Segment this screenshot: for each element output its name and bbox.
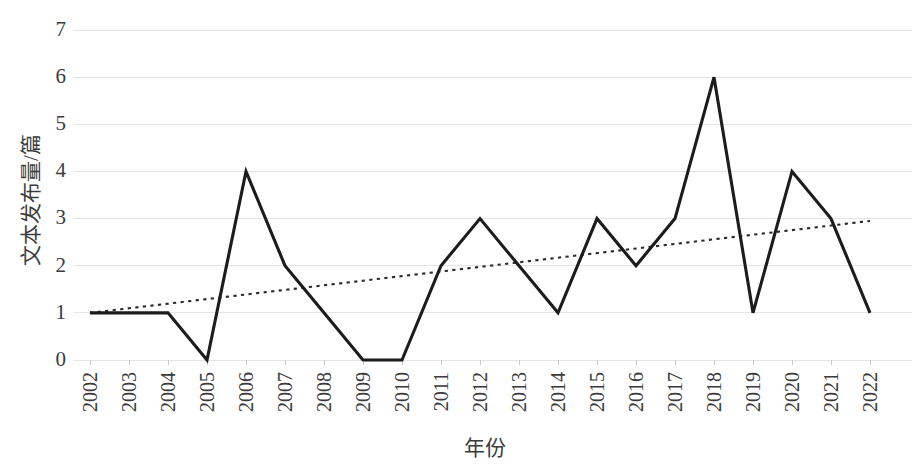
y-tick-labels-group: 01234567 [56, 17, 67, 371]
x-tick-label-2013: 2013 [508, 372, 530, 412]
y-tick-label-6: 6 [56, 64, 67, 88]
x-tick-label-2005: 2005 [196, 372, 218, 412]
x-tick-label-2012: 2012 [469, 372, 491, 412]
line-chart-figure: 01234567 2002200320042005200620072008200… [0, 0, 917, 470]
y-tick-label-3: 3 [56, 205, 67, 229]
x-tick-label-2002: 2002 [79, 372, 101, 412]
y-tick-label-5: 5 [56, 111, 67, 135]
x-tick-label-2010: 2010 [391, 372, 413, 412]
x-tick-label-2017: 2017 [664, 372, 686, 412]
x-tick-label-2015: 2015 [586, 372, 608, 412]
x-tick-label-2014: 2014 [547, 372, 569, 412]
x-tick-label-2019: 2019 [742, 372, 764, 412]
x-tick-label-2009: 2009 [352, 372, 374, 412]
x-tick-label-2016: 2016 [625, 372, 647, 412]
x-tick-label-2004: 2004 [157, 372, 179, 412]
x-tick-labels-group: 2002200320042005200620072008200920102011… [79, 372, 881, 412]
y-tick-label-1: 1 [56, 300, 67, 324]
y-tick-label-7: 7 [56, 17, 67, 41]
x-tick-label-2003: 2003 [118, 372, 140, 412]
y-tick-label-0: 0 [56, 347, 67, 371]
x-tick-label-2022: 2022 [859, 372, 881, 412]
y-tick-label-4: 4 [56, 158, 67, 182]
x-tick-label-2007: 2007 [274, 372, 296, 412]
x-tick-label-2021: 2021 [820, 372, 842, 412]
x-tick-label-2006: 2006 [235, 372, 257, 412]
y-tick-label-2: 2 [56, 253, 67, 277]
chart-canvas: 01234567 2002200320042005200620072008200… [0, 0, 917, 470]
x-axis-title: 年份 [464, 436, 506, 460]
x-tick-label-2011: 2011 [430, 372, 452, 411]
trend-line [90, 221, 870, 313]
x-tick-label-2008: 2008 [313, 372, 335, 412]
x-tick-label-2018: 2018 [703, 372, 725, 412]
y-axis-title: 文本发布量/篇 [19, 134, 43, 266]
x-tick-label-2020: 2020 [781, 372, 803, 412]
